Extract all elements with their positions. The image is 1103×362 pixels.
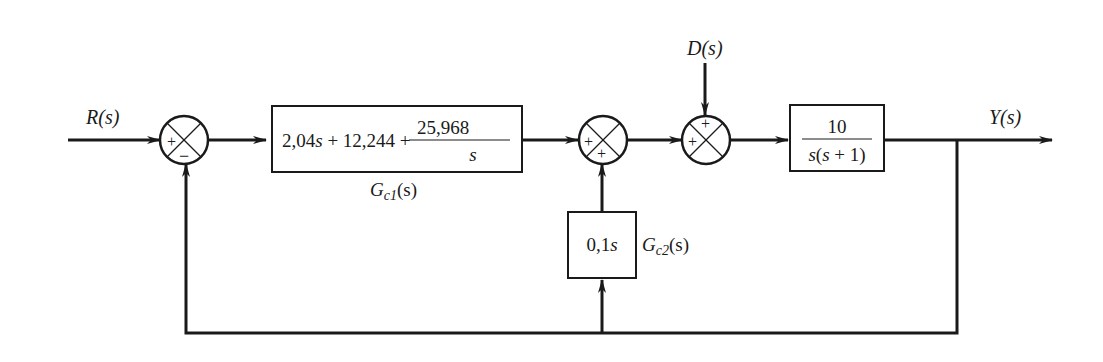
block-diagram: + − + + + + 2,04s + 12,244 + 25,968 s Gc… xyxy=(0,0,1103,362)
output-label: Y(s) xyxy=(989,106,1022,129)
sum3-left-sign: + xyxy=(688,133,697,150)
gc2-label: Gc2(s) xyxy=(642,234,689,258)
sum2-left-sign: + xyxy=(584,133,593,150)
input-label: R(s) xyxy=(85,106,120,129)
sum1-bottom-sign: − xyxy=(179,146,189,166)
gc1-fraction-numerator: 25,968 xyxy=(417,117,469,138)
gc2-expression: 0,1s xyxy=(586,234,617,255)
sum2-bottom-sign: + xyxy=(597,145,606,162)
gc1-expression: 2,04s + 12,244 + xyxy=(282,130,411,151)
disturbance-label: D(s) xyxy=(686,37,723,60)
plant-numerator: 10 xyxy=(828,116,847,137)
plant-denominator: s(s + 1) xyxy=(808,144,865,166)
gc1-fraction-denominator: s xyxy=(469,144,476,165)
gc1-label: Gc1(s) xyxy=(370,179,417,203)
sum3-top-sign: + xyxy=(701,115,710,132)
sum1-left-sign: + xyxy=(167,133,176,150)
